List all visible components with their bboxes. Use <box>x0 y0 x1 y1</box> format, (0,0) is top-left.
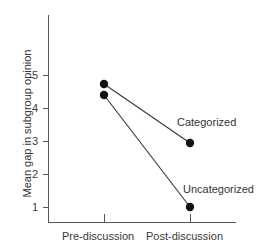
data-point-uncategorized-pre <box>100 91 108 99</box>
series-label-uncategorized: Uncategorized <box>183 184 254 195</box>
data-point-categorized-pre <box>100 80 108 88</box>
series-line-categorized <box>104 84 190 143</box>
y-axis-title: Mean gap in subgroup opinion <box>22 34 33 214</box>
x-tick-label-post-discussion: Post-discussion <box>146 231 223 242</box>
series-label-categorized: Categorized <box>177 117 236 128</box>
data-point-categorized-post <box>186 139 194 147</box>
chart-figure: 5 4 3 2 1 Pre-discussion Post-discussion… <box>0 0 267 251</box>
series-line-uncategorized <box>104 95 190 207</box>
data-point-uncategorized-post <box>186 203 194 211</box>
x-tick-label-pre-discussion: Pre-discussion <box>62 231 134 242</box>
